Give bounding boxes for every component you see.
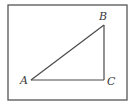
edge-ab: [31, 25, 104, 80]
vertex-label-a: A: [19, 74, 28, 87]
vertex-label-b: B: [98, 10, 107, 23]
vertex-label-c: C: [107, 75, 116, 88]
triangle-diagram: A B C: [0, 0, 134, 108]
